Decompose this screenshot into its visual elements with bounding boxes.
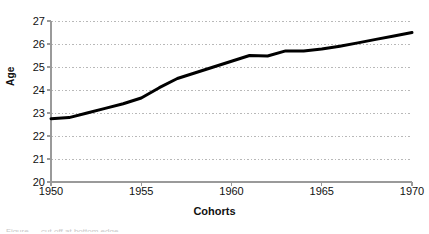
axis-tick-marks xyxy=(47,21,412,186)
y-axis-title: Age xyxy=(5,67,16,87)
x-tick-label-1960: 1960 xyxy=(219,186,243,197)
y-tick-label-23: 23 xyxy=(33,108,45,119)
x-tick-label-1955: 1955 xyxy=(129,186,153,197)
y-tick-label-26: 26 xyxy=(33,39,45,50)
line-chart-canvas xyxy=(0,0,429,234)
x-tick-label-1970: 1970 xyxy=(400,186,424,197)
x-tick-label-1950: 1950 xyxy=(39,186,63,197)
data-series-line xyxy=(51,33,412,119)
y-tick-label-22: 22 xyxy=(33,131,45,142)
x-axis-title: Cohorts xyxy=(0,205,429,217)
chart-figure: 2726252423222120 Age Cohorts Figure — cu… xyxy=(0,0,429,234)
y-tick-label-24: 24 xyxy=(33,85,45,96)
cut-off-caption: Figure — cut off at bottom edge xyxy=(6,227,216,232)
y-tick-label-21: 21 xyxy=(33,154,45,165)
y-tick-label-25: 25 xyxy=(33,62,45,73)
y-axis-tick-labels: 2726252423222120 xyxy=(0,0,45,234)
y-tick-label-27: 27 xyxy=(33,16,45,27)
x-tick-label-1965: 1965 xyxy=(310,186,334,197)
